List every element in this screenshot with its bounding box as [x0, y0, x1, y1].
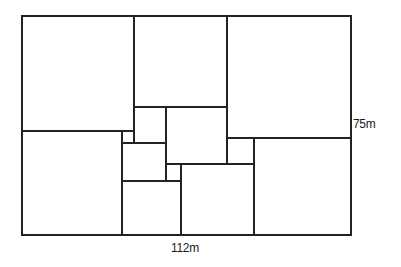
squared-rectangle-diagram	[0, 0, 401, 267]
square-dividers	[22, 16, 351, 235]
height-label: 75m	[353, 117, 375, 131]
outer-rectangle	[22, 16, 351, 235]
width-label: 112m	[171, 241, 199, 255]
